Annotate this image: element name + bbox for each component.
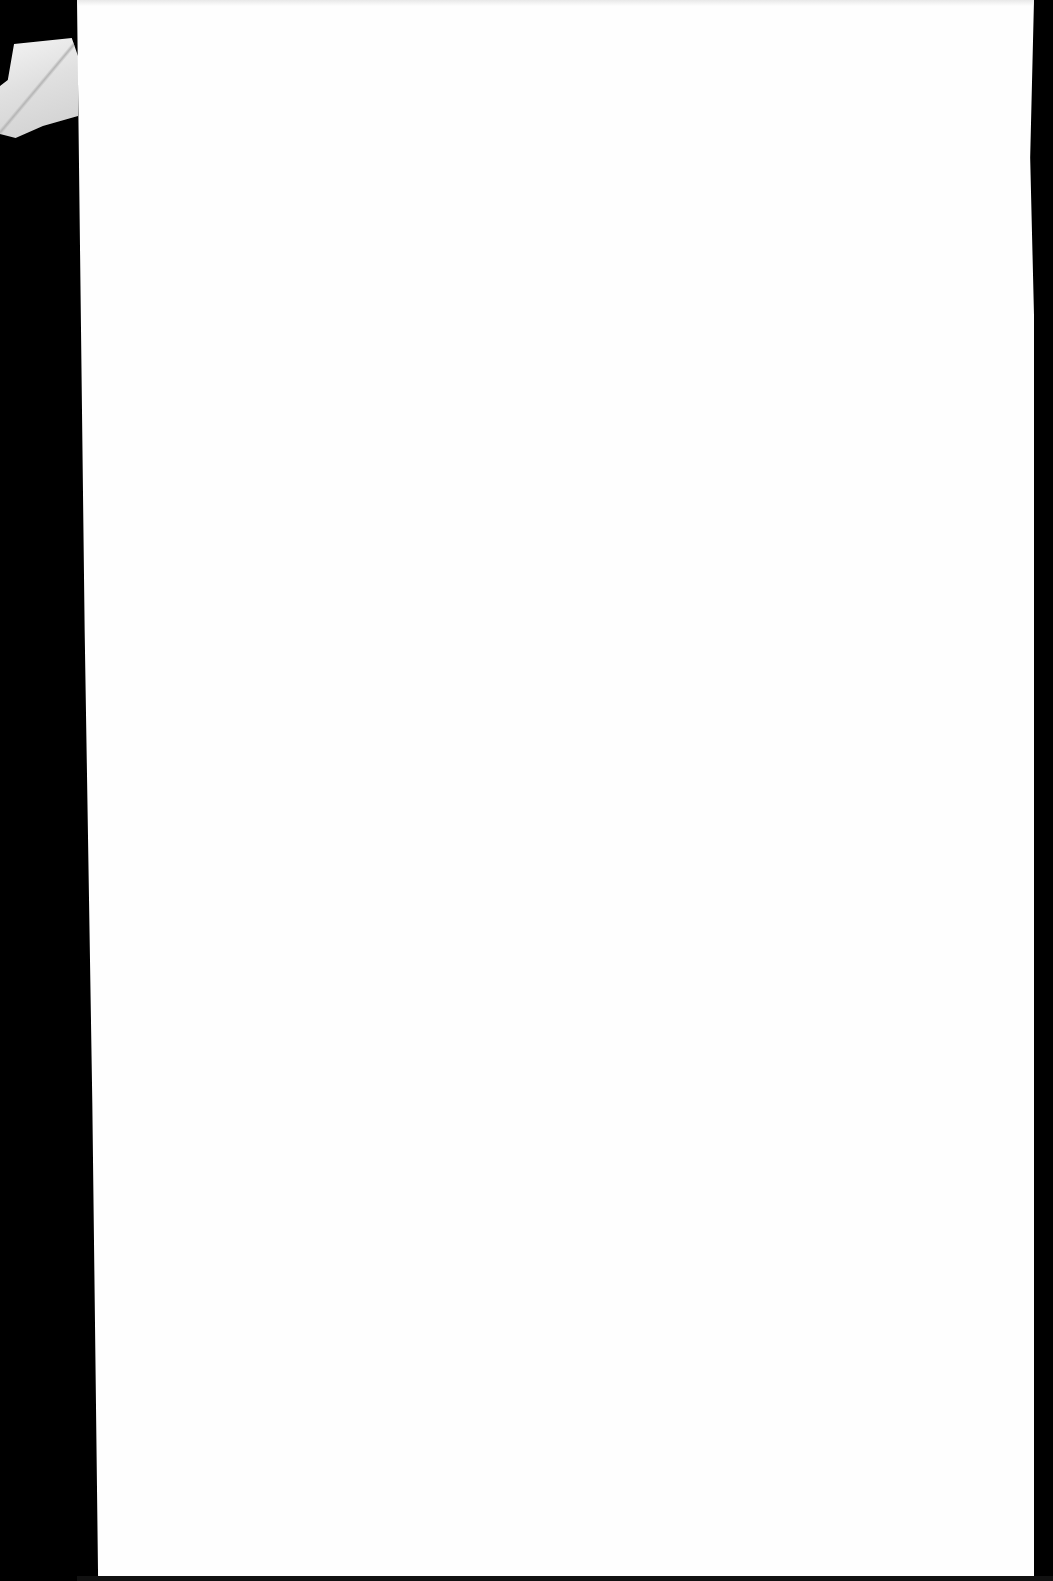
blank-page (77, 0, 1034, 1576)
scan-bottom-border (77, 1576, 1053, 1581)
scanned-document (0, 0, 1053, 1581)
paper-fold-line (0, 38, 78, 138)
page-top-edge (77, 0, 1034, 6)
